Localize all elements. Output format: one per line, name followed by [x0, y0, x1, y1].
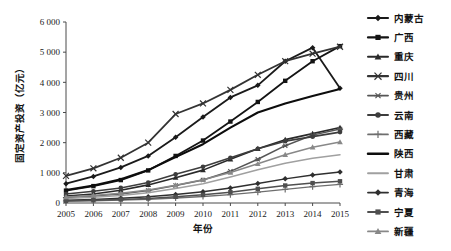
square-marker: [173, 195, 177, 199]
legend-label: 陕西: [394, 148, 414, 159]
legend-item-西藏[interactable]: 西藏: [364, 126, 444, 142]
y-tick-label: 2 000: [40, 138, 61, 148]
legend-label: 青海: [394, 187, 414, 198]
x-tick-label: 2010: [194, 209, 213, 219]
square-marker: [256, 187, 260, 191]
x-tick-label: 2015: [331, 209, 350, 219]
diamond-marker: [228, 185, 234, 191]
legend-label: 广西: [394, 32, 414, 43]
square-marker: [228, 119, 232, 123]
legend-item-宁夏[interactable]: 宁夏: [364, 204, 444, 220]
y-tick-label: 0: [56, 198, 61, 208]
square-marker: [375, 35, 380, 40]
legend-item-新疆[interactable]: 新疆: [364, 223, 444, 239]
legend-item-广西[interactable]: 广西: [364, 29, 444, 45]
data-point-marker: [310, 134, 315, 139]
circle-marker: [338, 130, 343, 135]
data-point-marker: [310, 181, 314, 185]
diamond-marker: [255, 181, 260, 187]
circle-marker: [201, 164, 206, 169]
square-marker: [119, 197, 123, 201]
axes: [66, 22, 340, 203]
data-point-marker: [282, 144, 288, 148]
data-point-marker: [201, 193, 205, 197]
data-point-marker: [228, 119, 232, 123]
y-tick-label: 3 000: [40, 108, 61, 118]
legend-label: 贵州: [394, 90, 414, 101]
diamond-marker: [63, 181, 69, 187]
square-marker: [283, 79, 287, 83]
series-line: [66, 47, 340, 176]
data-point-marker: [375, 35, 380, 40]
data-point-marker: [255, 72, 261, 78]
data-point-marker: [64, 199, 68, 203]
circle-marker: [118, 186, 123, 191]
circle-marker: [173, 172, 178, 177]
series-group: [63, 44, 343, 205]
legend-item-青海[interactable]: 青海: [364, 185, 444, 201]
legend-item-陕西[interactable]: 陕西: [364, 146, 444, 162]
x-tick-label: 2009: [167, 209, 186, 219]
cross-marker: [145, 140, 151, 146]
data-point-marker: [91, 174, 97, 180]
data-point-marker: [228, 190, 232, 194]
cross-marker: [255, 72, 261, 78]
diamond-marker: [118, 165, 124, 171]
star-marker: [255, 157, 261, 161]
legend-item-四川[interactable]: 四川: [364, 68, 444, 84]
diamond-marker: [282, 176, 288, 182]
line-chart: 01 0002 0003 0004 0005 0006 000200520062…: [0, 0, 451, 251]
cross-marker: [227, 87, 233, 93]
legend-item-内蒙古[interactable]: 内蒙古: [364, 10, 444, 26]
legend-label: 新疆: [394, 226, 414, 237]
legend-item-重庆[interactable]: 重庆: [364, 49, 444, 65]
legend-label: 西藏: [394, 129, 414, 140]
data-point-marker: [282, 176, 288, 182]
y-tick-label: 5 000: [40, 47, 61, 57]
data-point-marker: [227, 87, 233, 93]
y-tick-label: 4 000: [40, 78, 61, 88]
data-point-marker: [118, 186, 123, 191]
data-point-marker: [255, 146, 260, 151]
legend-label: 四川: [394, 71, 414, 82]
series-四川: [63, 44, 343, 179]
y-tick-label: 6 000: [40, 17, 61, 27]
circle-marker: [283, 139, 288, 144]
data-point-marker: [146, 196, 150, 200]
data-point-marker: [375, 209, 380, 214]
x-axis-ticks: 2005200620072008200920102011201220132014…: [57, 203, 350, 219]
legend-label: 内蒙古: [394, 13, 424, 24]
square-marker: [91, 198, 95, 202]
legend-item-贵州[interactable]: 贵州: [364, 88, 444, 104]
circle-marker: [310, 134, 315, 139]
diamond-marker: [310, 172, 316, 178]
data-point-marker: [310, 59, 314, 63]
square-marker: [338, 179, 342, 183]
x-tick-label: 2014: [304, 209, 323, 219]
square-marker: [201, 193, 205, 197]
square-marker: [64, 199, 68, 203]
data-point-marker: [255, 157, 261, 161]
square-marker: [228, 190, 232, 194]
square-marker: [310, 59, 314, 63]
square-marker: [375, 209, 380, 214]
diamond-marker: [337, 169, 343, 175]
data-point-marker: [146, 180, 151, 185]
axis-lines: [66, 22, 340, 203]
legend-item-云南[interactable]: 云南: [364, 107, 444, 123]
series-line: [66, 128, 340, 196]
square-marker: [283, 183, 287, 187]
data-point-marker: [63, 181, 69, 187]
y-axis-ticks: 01 0002 0003 0004 0005 0006 000: [40, 17, 66, 208]
data-point-marker: [228, 155, 233, 160]
circle-marker: [228, 155, 233, 160]
square-marker: [146, 196, 150, 200]
data-point-marker: [283, 139, 288, 144]
x-tick-label: 2013: [276, 209, 295, 219]
square-marker: [310, 181, 314, 185]
legend-item-甘肃[interactable]: 甘肃: [364, 165, 444, 181]
square-marker: [256, 100, 260, 104]
circle-marker: [146, 180, 151, 185]
data-point-marker: [201, 164, 206, 169]
x-tick-label: 2005: [57, 209, 76, 219]
